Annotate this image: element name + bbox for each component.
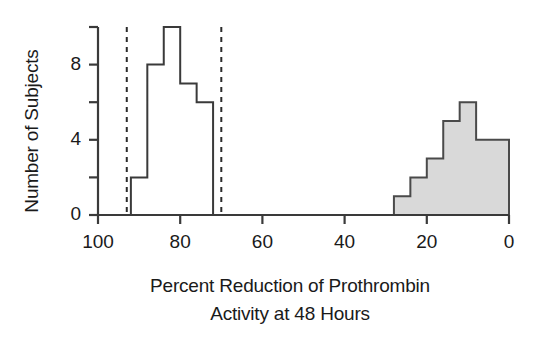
series-responders bbox=[131, 27, 213, 215]
series-non-responders bbox=[394, 102, 509, 215]
histogram-shaded-outline bbox=[394, 102, 509, 215]
x-tick-label-100: 100 bbox=[68, 231, 128, 253]
reference-lines bbox=[127, 27, 222, 215]
x-tick-label-20: 20 bbox=[397, 231, 457, 253]
y-tick-label-8: 8 bbox=[53, 53, 81, 75]
histogram-chart: Number of Subjects 100806040200 048 Perc… bbox=[0, 0, 540, 361]
x-tick-label-0: 0 bbox=[479, 231, 539, 253]
x-axis-title: Percent Reduction of Prothrombin Activit… bbox=[60, 272, 520, 328]
x-tick-label-80: 80 bbox=[150, 231, 210, 253]
histogram-open-outline bbox=[131, 27, 213, 215]
x-tick-label-60: 60 bbox=[232, 231, 292, 253]
x-tick-label-40: 40 bbox=[315, 231, 375, 253]
y-tick-label-0: 0 bbox=[53, 203, 81, 225]
x-axis-title-line2: Activity at 48 Hours bbox=[60, 300, 520, 328]
y-tick-label-4: 4 bbox=[53, 128, 81, 150]
x-axis-title-line1: Percent Reduction of Prothrombin bbox=[60, 272, 520, 300]
